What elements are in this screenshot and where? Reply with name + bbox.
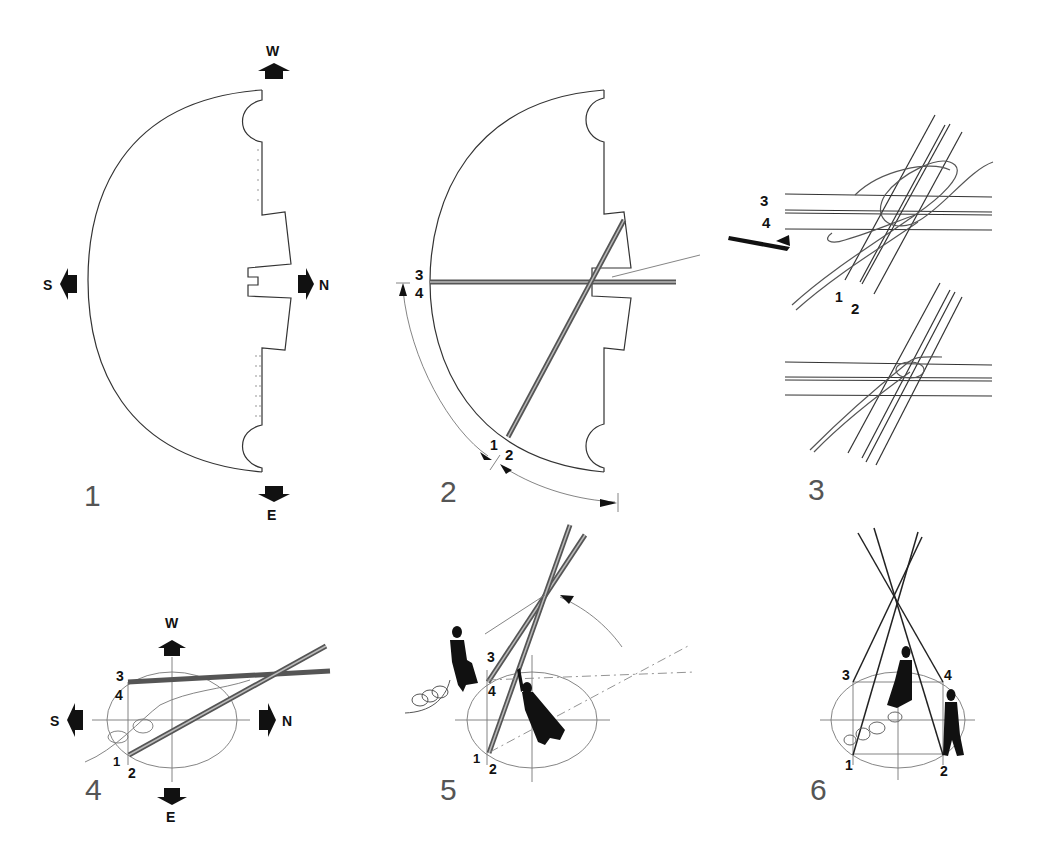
pole-label-2: 2 [851, 300, 859, 317]
arrow-left-icon [60, 268, 77, 300]
arrow-left-icon [67, 703, 83, 737]
person-pulling-figure [450, 626, 478, 692]
person-center-figure [887, 646, 912, 708]
measure-arc-1 [403, 290, 488, 456]
pole-label-3: 3 [415, 266, 423, 283]
pole-label-1: 1 [113, 754, 120, 769]
pole-label-1: 1 [845, 757, 853, 773]
step-number-4: 4 [85, 773, 102, 806]
raise-arc [560, 597, 622, 647]
step-3-panel: 3 4 1 2 3 [728, 115, 993, 506]
arrow-head-icon [480, 452, 492, 460]
pole-label-2: 2 [489, 761, 497, 777]
step-5-panel: 3 4 1 2 5 [405, 525, 695, 806]
pole-label-3: 3 [487, 649, 495, 665]
pole-label-1: 1 [490, 437, 498, 453]
compass-label-e: E [166, 809, 175, 825]
person-right-figure [943, 689, 964, 756]
step-number-5: 5 [440, 773, 457, 806]
detail-arrow-shaft [728, 236, 790, 251]
compass-label-w: W [165, 615, 179, 631]
compass-label-w: W [266, 43, 280, 59]
pole-label-3: 3 [760, 192, 768, 209]
diagonal-poles-upper [845, 115, 962, 294]
arrow-head-icon [399, 283, 407, 296]
step-number-2: 2 [440, 475, 457, 508]
compass-label-s: S [50, 713, 59, 729]
pole-label-4: 4 [415, 284, 424, 301]
pole-label-3: 3 [842, 667, 850, 683]
cover-edge [243, 90, 292, 472]
pole-label-4: 4 [762, 214, 771, 231]
pole-label-2: 2 [940, 763, 948, 779]
step-number-3: 3 [808, 473, 825, 506]
pole-label-4: 4 [488, 683, 496, 699]
arrow-up-icon [258, 63, 290, 79]
arrow-right-icon [259, 703, 276, 737]
compass-label-n: N [282, 713, 292, 729]
arrow-up-icon [158, 640, 186, 656]
pole-label-4: 4 [944, 667, 952, 683]
arrow-down-icon [157, 788, 187, 805]
pole-label-3: 3 [116, 668, 124, 684]
step-number-1: 1 [84, 479, 101, 512]
pole-label-2: 2 [505, 446, 513, 463]
rope-knot-loose [792, 161, 993, 310]
step-4-panel: W S N E 3 4 1 2 4 [50, 615, 330, 825]
rope-knot-tight [810, 357, 942, 452]
compass-label-e: E [267, 507, 276, 523]
pole-label-4: 4 [115, 687, 123, 703]
pole-label-1: 1 [473, 751, 480, 766]
pole-label-2: 2 [128, 765, 136, 781]
detail-pointer-line [612, 255, 700, 277]
rope-coil [405, 680, 450, 713]
step-6-panel: 3 4 1 2 6 [810, 528, 975, 806]
arrow-right-icon [776, 235, 790, 246]
arrow-down-icon [258, 486, 290, 502]
step-number-6: 6 [810, 773, 827, 806]
diagonal-poles-lower [848, 283, 962, 465]
step-1-panel: W S N E 1 [43, 43, 329, 523]
arrow-right-icon [298, 268, 314, 300]
pole-label-1: 1 [835, 289, 843, 305]
tipi-instruction-diagram: W S N E 1 3 4 1 2 2 [0, 0, 1041, 855]
arrow-head-icon [500, 464, 512, 474]
compass-label-s: S [43, 277, 52, 293]
cover-arc [88, 90, 262, 472]
compass-label-n: N [319, 277, 329, 293]
measure-arc-2 [505, 468, 615, 502]
arrow-head-icon [600, 499, 617, 507]
step-2-panel: 3 4 1 2 2 [396, 90, 700, 512]
